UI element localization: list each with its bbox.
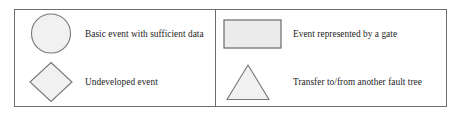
fault-tree-legend-frame: Basic event with sufficient data Undevel… bbox=[14, 9, 447, 107]
transfer-triangle-symbol bbox=[223, 61, 283, 103]
legend-label-gate-event: Event represented by a gate bbox=[284, 29, 446, 39]
legend-label-basic-event: Basic event with sufficient data bbox=[81, 29, 215, 39]
symbol-cell-undeveloped-event bbox=[20, 61, 81, 103]
gate-event-rectangle-symbol bbox=[223, 13, 283, 55]
legend-row-basic-event: Basic event with sufficient data bbox=[15, 10, 215, 58]
symbol-cell-transfer bbox=[222, 61, 284, 103]
legend-label-transfer: Transfer to/from another fault tree bbox=[284, 77, 446, 87]
legend-row-transfer: Transfer to/from another fault tree bbox=[216, 58, 446, 106]
basic-event-circle-symbol bbox=[28, 13, 74, 55]
legend-label-undeveloped-event: Undeveloped event bbox=[81, 77, 215, 87]
legend-row-undeveloped-event: Undeveloped event bbox=[15, 58, 215, 106]
undeveloped-event-diamond-symbol bbox=[28, 61, 74, 103]
legend-column-right: Event represented by a gate Transfer to/… bbox=[216, 10, 446, 106]
symbol-cell-basic-event bbox=[20, 13, 81, 55]
legend-column-left: Basic event with sufficient data Undevel… bbox=[15, 10, 216, 106]
legend-row-gate-event: Event represented by a gate bbox=[216, 10, 446, 58]
symbol-cell-gate-event bbox=[222, 13, 284, 55]
